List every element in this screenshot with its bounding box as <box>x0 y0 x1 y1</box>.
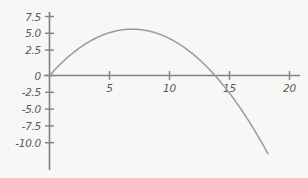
y-tick-label-5.0: 5.0 <box>25 27 41 39</box>
y-tick-label-neg2.5: -2.5 <box>22 86 42 98</box>
y-tick-label-neg5.0: -5.0 <box>22 103 42 115</box>
y-tick-label-0: 0 <box>35 70 42 82</box>
y-tick-label-neg10.0: -10.0 <box>15 137 41 149</box>
chart-canvas: 7.5 5.0 2.5 0 -2.5 -5.0 -7.5 -10.0 5 10 … <box>0 0 308 178</box>
x-tick-label-20: 20 <box>283 82 296 94</box>
y-tick-label-2.5: 2.5 <box>25 44 41 56</box>
chart-background <box>0 0 308 178</box>
chart-figure: 7.5 5.0 2.5 0 -2.5 -5.0 -7.5 -10.0 5 10 … <box>0 0 308 178</box>
y-tick-label-7.5: 7.5 <box>25 11 41 23</box>
x-tick-label-10: 10 <box>163 82 176 94</box>
y-tick-label-neg7.5: -7.5 <box>22 120 42 132</box>
x-tick-label-5: 5 <box>106 82 113 94</box>
